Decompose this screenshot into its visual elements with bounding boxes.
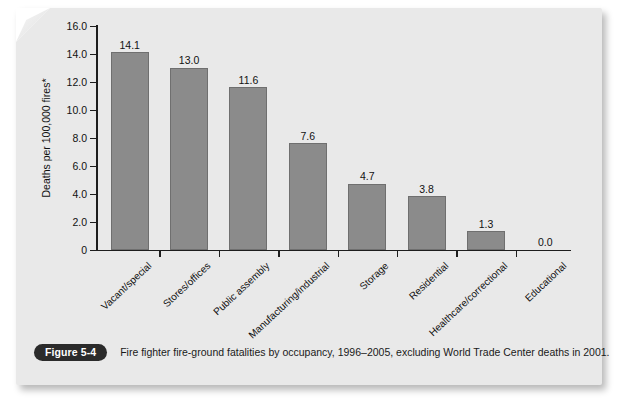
x-tick-mark [456, 251, 458, 257]
bar-value-label: 7.6 [301, 130, 316, 142]
bar [408, 196, 446, 249]
figure-caption-text: Fire fighter fire-ground fatalities by o… [120, 346, 609, 358]
x-tick-mark [397, 251, 399, 257]
bar [111, 52, 149, 249]
figure-panel: Deaths per 100,000 fires* 02.04.06.08.01… [16, 8, 602, 385]
category-label: Public assembly [212, 260, 272, 317]
y-tick-label: 14.0 [67, 48, 87, 60]
category-label: Residential [406, 260, 450, 302]
y-tick-mark [90, 166, 96, 168]
figure-caption-row: Figure 5-4 Fire fighter fire-ground fata… [34, 344, 586, 362]
x-tick-mark [338, 251, 340, 257]
y-tick-label: 10.0 [67, 104, 87, 116]
bar [170, 68, 208, 250]
x-tick-mark [219, 251, 221, 257]
bar-value-label: 11.6 [239, 74, 259, 86]
y-tick-label: 2.0 [72, 216, 87, 228]
y-tick-mark [90, 110, 96, 112]
bar-value-label: 13.0 [179, 54, 199, 66]
category-label: Educational [523, 260, 569, 304]
figure-number-badge: Figure 5-4 [34, 344, 107, 362]
x-axis-line [96, 250, 571, 252]
bar-value-label: 0.0 [538, 236, 553, 248]
y-tick-label: 4.0 [72, 188, 87, 200]
bar-value-label: 14.1 [119, 39, 139, 51]
y-tick-mark [90, 82, 96, 84]
bar [229, 87, 267, 249]
y-tick-label: 16.0 [67, 20, 87, 32]
bar-value-label: 4.7 [360, 170, 375, 182]
x-tick-mark [516, 251, 518, 257]
plot-area: 02.04.06.08.010.012.014.016.0 14.113.011… [96, 25, 571, 251]
y-tick-label: 6.0 [72, 160, 87, 172]
y-tick-mark [90, 26, 96, 28]
category-label: Vacant/special [99, 260, 154, 312]
y-axis-title-label: Deaths per 100,000 fires* [40, 78, 52, 197]
y-tick-mark [90, 138, 96, 140]
x-tick-mark [278, 251, 280, 257]
y-tick-label: 8.0 [72, 132, 87, 144]
bar-value-label: 3.8 [419, 183, 434, 195]
y-tick-mark [90, 54, 96, 56]
y-tick-mark [90, 250, 96, 252]
bar-value-label: 1.3 [479, 218, 494, 230]
category-label: Storage [358, 260, 391, 292]
x-tick-mark [159, 251, 161, 257]
y-tick-label: 0 [81, 244, 87, 256]
y-tick-mark [90, 194, 96, 196]
bar [289, 143, 327, 249]
bar [348, 184, 386, 250]
y-axis-title: Deaths per 100,000 fires* [38, 25, 54, 251]
y-tick-mark [90, 222, 96, 224]
y-axis-line [96, 25, 98, 251]
y-tick-label: 12.0 [67, 76, 87, 88]
bar [467, 231, 505, 249]
category-label: Stores/offices [161, 260, 213, 309]
